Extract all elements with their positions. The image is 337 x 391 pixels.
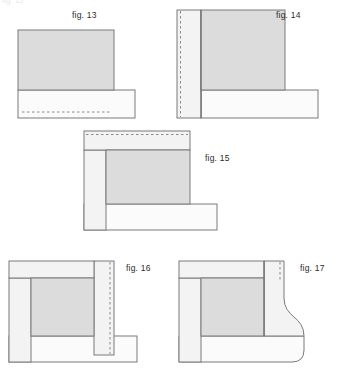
figure-16: fig. 16	[6, 252, 171, 377]
fig17-caption: fig. 17	[300, 263, 325, 273]
fig13-panel	[18, 30, 114, 90]
fig14-panel	[201, 10, 285, 90]
fig16-right-strip	[94, 261, 114, 355]
fig15-caption: fig. 15	[205, 153, 230, 163]
figure-15: fig. 15	[82, 128, 247, 233]
fig17-panel	[201, 278, 264, 336]
fig15-left-strip	[84, 150, 106, 230]
fig16-left-strip	[9, 278, 31, 362]
fig15-panel	[106, 150, 190, 204]
fig14-caption: fig. 14	[276, 10, 301, 20]
fig13-base-board	[18, 90, 135, 118]
fig16-panel	[31, 278, 94, 336]
fig17-top-band	[179, 261, 264, 278]
fig16-top-band	[9, 261, 94, 278]
fig17-ogee-curve-member	[264, 261, 304, 336]
fig17-left-strip	[179, 278, 201, 362]
fig16-caption: fig. 16	[126, 263, 151, 273]
figure-17: fig. 17	[176, 252, 337, 377]
figure-14: fig. 14	[168, 0, 337, 125]
illustration-sheet: fig. 12 fig. 13 fig. 14	[0, 0, 337, 391]
fig15-top-band	[84, 131, 190, 150]
fig14-base-board	[201, 90, 318, 118]
fig13-caption: fig. 13	[72, 10, 97, 20]
figure-13: fig. 13	[0, 0, 150, 125]
